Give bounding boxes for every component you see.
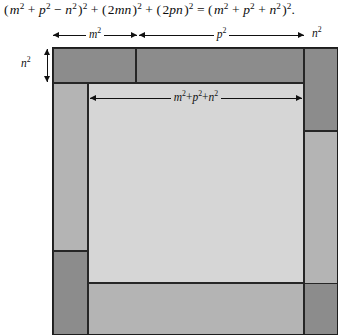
measure-label-left-side: n2 [21,58,31,70]
arrow-left-icon [53,32,59,38]
arrow-left-icon [139,32,145,38]
region-inner-square [88,83,304,283]
diagram-page: ( m2 + p2 − n2 )2 + ( 2mn )2 + ( 2pn )2 … [0,0,357,335]
region-right-upper-rectangle [304,131,338,299]
arrow-left-icon [90,95,96,101]
measure-label-inner-square: m2+p2+n2 [171,92,222,104]
region-left-lower-rectangle [53,251,88,335]
measure-top-m-squared: m2 [53,27,137,43]
region-top-left-rectangle [53,48,136,83]
measure-label-top-middle: p2 [214,29,230,41]
measure-label-top-left: m2 [86,29,104,41]
region-top-middle-rectangle [136,48,304,83]
region-left-upper-rectangle [53,83,88,251]
region-top-right-rectangle [304,48,338,131]
arrow-down-icon [44,76,50,82]
arrow-right-icon [131,32,137,38]
arrow-right-icon [296,95,302,101]
square-dissection-figure: m2+p2+n2 [52,47,338,335]
measure-inner-square-side: m2+p2+n2 [90,90,302,106]
measure-top-p-squared: p2 [139,27,304,43]
arrow-right-icon [298,32,304,38]
measure-label-top-right: n2 [312,28,322,40]
arrow-up-icon [44,49,50,55]
identity-equation: ( m2 + p2 − n2 )2 + ( 2mn )2 + ( 2pn )2 … [4,2,356,18]
region-bottom-right-rectangle [304,283,338,335]
region-bottom-left-rectangle [88,283,304,335]
